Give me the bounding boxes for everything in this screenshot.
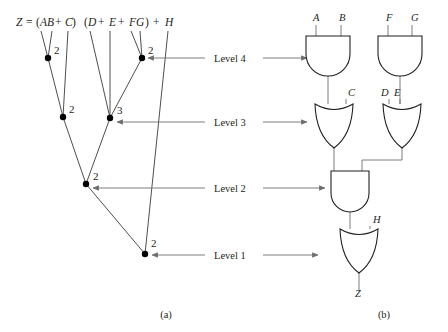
- level-label: Level 4: [214, 53, 247, 64]
- circuit-label-sig-g: G: [411, 12, 419, 23]
- tree-edge-edge-or1-and: [63, 117, 86, 184]
- circuit-label-sig-c: C: [348, 87, 356, 98]
- expression-token: FG: [128, 16, 145, 28]
- figure-container: Z=(AB+C)(D+E+FG)+H 222322 Level 4Level 3…: [0, 0, 448, 332]
- tree-edges-group: [41, 31, 168, 254]
- tree-edge-edge-fg-or: [110, 58, 142, 118]
- expression-token: AB: [39, 16, 54, 28]
- tree-fanin-label: 2: [151, 237, 157, 249]
- expression-token: +: [55, 16, 62, 28]
- tree-edge-edge-h: [145, 31, 168, 254]
- expression-token: +: [153, 16, 160, 28]
- part-b-logic-circuit: ABFGCDEHZ: [306, 12, 422, 299]
- circuit-gates-group: [306, 36, 422, 273]
- tree-node-n-or-abc: [60, 114, 66, 120]
- gate-or-root-or-gate: [340, 229, 378, 273]
- circuit-label-sig-b: B: [339, 12, 346, 23]
- level-label: Level 2: [214, 183, 246, 194]
- tree-edge-edge-and-root: [86, 184, 145, 254]
- expression-token: ): [72, 16, 76, 29]
- level-annotation-level-4: Level 4: [148, 53, 307, 64]
- expression-token: D: [87, 16, 97, 28]
- boolean-expression: Z=(AB+C)(D+E+FG)+H: [16, 16, 174, 29]
- caption-part-a: (a): [160, 309, 172, 321]
- tree-fanin-label: 2: [69, 103, 75, 115]
- wire-wire-or2-and3: [362, 148, 402, 171]
- tree-edge-edge-and-or: [48, 58, 63, 117]
- tree-fanin-labels-group: 222322: [54, 44, 157, 249]
- level-label: Level 1: [214, 250, 246, 261]
- tree-fanin-label: 2: [93, 170, 99, 182]
- level-annotations-group: Level 4Level 3Level 2Level 1: [93, 53, 325, 261]
- level-annotation-level-3: Level 3: [117, 117, 307, 128]
- expression-token: +: [118, 16, 125, 28]
- circuit-label-sig-a: A: [312, 12, 320, 23]
- part-a-expression-tree: Z=(AB+C)(D+E+FG)+H 222322: [16, 16, 174, 257]
- tree-node-n-and-ab: [45, 55, 51, 61]
- circuit-label-sig-f: F: [385, 12, 393, 23]
- circuit-label-sig-d: D: [380, 87, 389, 98]
- expression-token: E: [108, 16, 116, 28]
- caption-part-b: (b): [378, 309, 391, 321]
- tree-fanin-label: 2: [148, 44, 154, 56]
- expression-token: =: [26, 16, 33, 28]
- circuit-label-sig-e: E: [393, 87, 401, 98]
- gate-and-prod-and-gate: [331, 171, 369, 212]
- tree-node-n-and-fg: [139, 55, 145, 61]
- figure-canvas: Z=(AB+C)(D+E+FG)+H 222322 Level 4Level 3…: [0, 0, 448, 332]
- gate-or-defg-or-gate: [383, 104, 421, 148]
- level-annotation-level-1: Level 1: [152, 250, 318, 261]
- tree-node-n-or-root: [142, 251, 148, 257]
- tree-node-n-and-prod: [83, 181, 89, 187]
- expression-token: ): [145, 16, 149, 29]
- tree-fanin-label: 3: [117, 104, 123, 116]
- tree-fanin-label: 2: [54, 44, 60, 56]
- gate-and-fg-and-gate: [378, 36, 422, 76]
- tree-edge-edge-a: [41, 31, 48, 58]
- circuit-label-sig-h: H: [372, 214, 382, 225]
- gate-and-ab-and-gate: [306, 36, 350, 76]
- expression-token: H: [164, 16, 174, 28]
- tree-edge-edge-b: [48, 31, 52, 58]
- tree-node-n-or-defg: [107, 115, 113, 121]
- level-label: Level 3: [214, 117, 246, 128]
- tree-edge-edge-c: [63, 31, 68, 117]
- expression-token: +: [98, 16, 105, 28]
- tree-edge-edge-d: [90, 31, 110, 118]
- level-annotation-level-2: Level 2: [93, 183, 325, 194]
- expression-token: Z: [16, 16, 23, 28]
- circuit-label-sig-z: Z: [355, 288, 361, 299]
- gate-or-abc-or-gate: [315, 104, 353, 148]
